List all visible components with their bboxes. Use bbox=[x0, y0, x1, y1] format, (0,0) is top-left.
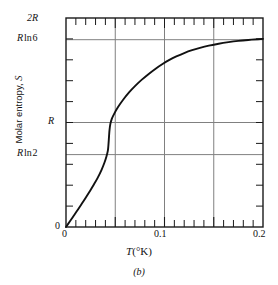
figure-container: 2R R ln 6 R R ln 2 0 0 0.1 0.2 Molar ent… bbox=[0, 0, 278, 285]
x-axis-major-ticks bbox=[115, 217, 214, 227]
y-axis-label-text: Molar entropy, bbox=[13, 83, 24, 143]
x-tick-label-0: 0 bbox=[62, 229, 67, 239]
entropy-vs-temperature-chart bbox=[0, 0, 278, 285]
plot-grid bbox=[66, 18, 263, 227]
y-axis-left-ticks bbox=[66, 39, 73, 206]
x-axis-label: T(°K) bbox=[0, 245, 278, 257]
y-axis-label: Molar entropy, S bbox=[13, 55, 24, 165]
x-tick-label-0.2: 0.2 bbox=[253, 229, 266, 239]
y-axis-label-symbol: S bbox=[13, 76, 24, 81]
y-tick-label-zero: 0 bbox=[55, 221, 60, 231]
figure-caption: (b) bbox=[0, 266, 278, 277]
x-axis-label-units: (°K) bbox=[132, 245, 152, 257]
x-tick-label-0.1: 0.1 bbox=[154, 229, 167, 239]
y-tick-label-rln6: R ln 6 bbox=[17, 33, 38, 43]
y-axis-right-ticks bbox=[256, 39, 263, 206]
y-tick-label-2r: 2R bbox=[27, 13, 38, 23]
y-tick-label-r: R bbox=[48, 116, 54, 126]
x-axis-top-minor-ticks bbox=[76, 18, 253, 28]
